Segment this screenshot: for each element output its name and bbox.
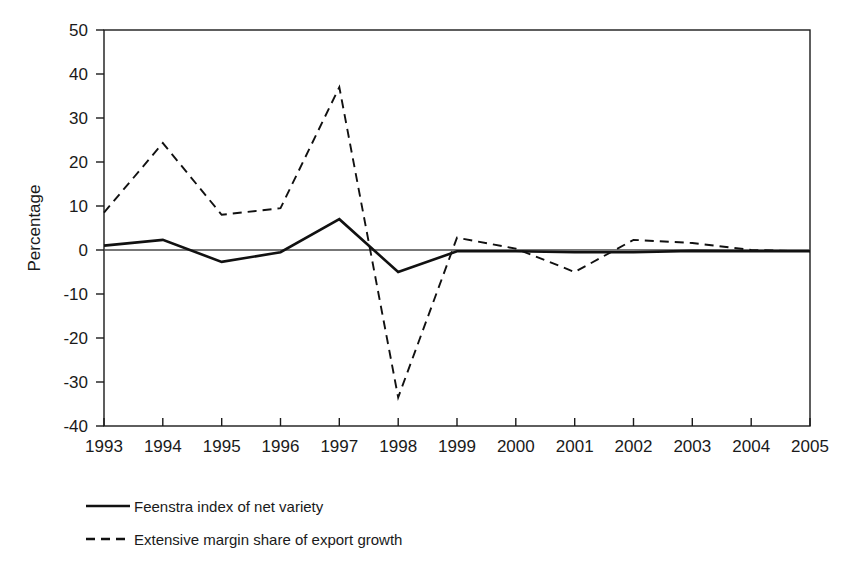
x-tick-label: 1993 — [85, 437, 123, 456]
x-tick-label: 2001 — [556, 437, 594, 456]
x-tick-label: 2002 — [615, 437, 653, 456]
y-axis-title: Percentage — [25, 185, 44, 272]
x-tick-label: 1994 — [144, 437, 182, 456]
y-tick-labels: 50 40 30 20 10 0 -10 -20 -30 -40 — [63, 21, 88, 436]
x-tick-label: 2003 — [673, 437, 711, 456]
y-tick-label: 50 — [69, 21, 88, 40]
x-tick-label: 1998 — [379, 437, 417, 456]
x-tick-label: 2005 — [791, 437, 829, 456]
x-tick-label: 1999 — [438, 437, 476, 456]
legend-label-extensive-margin: Extensive margin share of export growth — [134, 531, 402, 548]
plot-frame — [104, 30, 810, 426]
x-tick-label: 1996 — [262, 437, 300, 456]
y-tick-label: -30 — [63, 373, 88, 392]
series-line-extensive-margin — [104, 87, 810, 397]
y-tick-label: -20 — [63, 329, 88, 348]
y-tick-marks — [96, 30, 104, 426]
x-tick-label: 2000 — [497, 437, 535, 456]
x-tick-marks — [104, 418, 810, 426]
x-tick-label: 1997 — [320, 437, 358, 456]
legend-label-feenstra: Feenstra index of net variety — [134, 498, 324, 515]
y-tick-label: 0 — [79, 241, 88, 260]
x-tick-label: 2004 — [732, 437, 770, 456]
y-tick-label: 30 — [69, 109, 88, 128]
x-tick-label: 1995 — [203, 437, 241, 456]
x-tick-labels: 1993 1994 1995 1996 1997 1998 1999 2000 … — [85, 437, 829, 456]
y-tick-label: 20 — [69, 153, 88, 172]
series-line-feenstra-index — [104, 219, 810, 272]
y-tick-label: 10 — [69, 197, 88, 216]
chart-legend: Feenstra index of net variety Extensive … — [86, 498, 402, 548]
y-tick-label: 40 — [69, 65, 88, 84]
series-group — [104, 87, 810, 397]
y-tick-label: -10 — [63, 285, 88, 304]
chart-figure: Percentage 50 40 30 20 10 0 -10 -20 -30 … — [0, 0, 857, 563]
y-tick-label: -40 — [63, 417, 88, 436]
line-chart: Percentage 50 40 30 20 10 0 -10 -20 -30 … — [0, 0, 857, 563]
